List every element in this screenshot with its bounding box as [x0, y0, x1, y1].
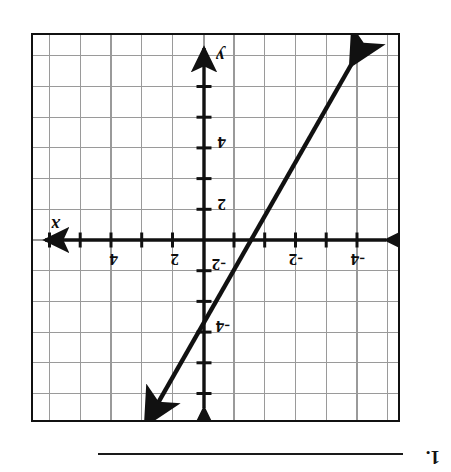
y-tick-label-neg4: -4	[216, 318, 230, 335]
problem-number: 1.	[426, 448, 440, 467]
x-tick-label-neg4: -4	[351, 251, 365, 268]
worksheet-sheet: 1.	[0, 0, 451, 472]
x-tick-label-2: 2	[171, 251, 180, 268]
answer-blank-line	[98, 453, 403, 455]
y-axis	[197, 48, 212, 408]
x-tick-label-4: 4	[110, 251, 119, 268]
y-tick-label-2: 2	[218, 196, 227, 213]
x-axis-label: x	[51, 216, 60, 234]
axes-and-plot	[33, 35, 398, 420]
y-axis-label: y	[216, 47, 224, 65]
y-tick-label-neg2: -2	[212, 256, 226, 273]
plotted-line	[146, 65, 351, 420]
x-tick-label-neg2: -2	[289, 251, 303, 268]
x-axis	[45, 233, 386, 248]
y-tick-label-4: 4	[218, 134, 227, 151]
coordinate-grid-figure: -4 -2 2 4 -4 -2 2 4 x y	[31, 33, 400, 422]
